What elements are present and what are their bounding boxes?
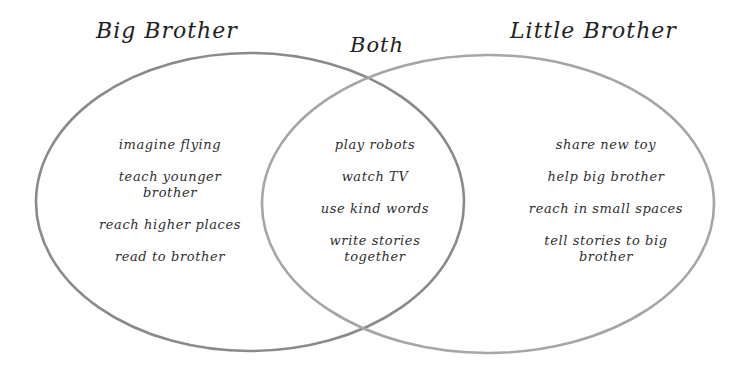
big-brother-items: imagine flying teach younger brother rea… <box>70 137 270 281</box>
list-item: read to brother <box>115 249 225 265</box>
list-item: reach in small spaces <box>529 201 683 217</box>
both-items: play robots watch TV use kind words writ… <box>292 137 458 281</box>
list-item: reach higher places <box>99 217 241 233</box>
little-brother-title: Little Brother <box>510 18 677 43</box>
list-item: tell stories to big brother <box>521 233 691 265</box>
list-item: watch TV <box>342 169 409 185</box>
list-item: write stories together <box>320 233 430 265</box>
big-brother-title: Big Brother <box>96 18 238 43</box>
list-item: share new toy <box>556 137 656 153</box>
list-item: play robots <box>335 137 415 153</box>
list-item: imagine flying <box>119 137 221 153</box>
list-item: use kind words <box>321 201 429 217</box>
list-item: teach younger brother <box>100 169 240 201</box>
both-title: Both <box>350 33 404 57</box>
list-item: help big brother <box>547 169 664 185</box>
little-brother-items: share new toy help big brother reach in … <box>492 137 720 281</box>
